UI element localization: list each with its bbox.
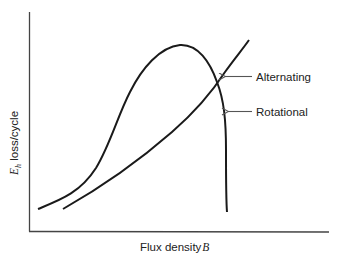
y-axis-label-text: loss/cycle bbox=[8, 111, 20, 164]
x-axis-label-text: Flux density bbox=[140, 241, 202, 253]
x-axis-label: Flux densityB bbox=[140, 241, 209, 253]
rotational-label: Rotational bbox=[256, 106, 308, 118]
y-axis-label-symbol: E bbox=[8, 168, 20, 176]
y-axis-label: Eh loss/cycle bbox=[8, 111, 23, 176]
chart-canvas: Alternating Rotational Flux densityB Eh … bbox=[0, 0, 339, 258]
hysteresis-loss-chart: Alternating Rotational Flux densityB Eh … bbox=[0, 0, 339, 258]
alternating-curve bbox=[63, 40, 249, 209]
x-axis bbox=[29, 232, 329, 233]
alternating-label: Alternating bbox=[256, 71, 311, 83]
rotational-curve bbox=[38, 45, 227, 212]
x-axis-label-symbol: B bbox=[202, 241, 209, 253]
